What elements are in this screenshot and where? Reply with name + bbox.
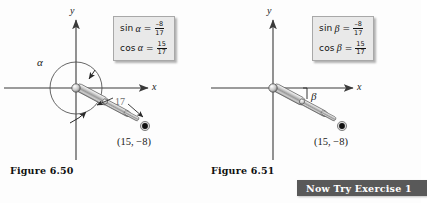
cos-denominator: 17 xyxy=(355,49,365,56)
angle-label-beta: β xyxy=(311,91,316,102)
formula-row-sin-beta: sin β = –8 17 xyxy=(319,21,366,37)
terminal-ray-rod xyxy=(272,83,338,123)
figure-6-50-panel: y x α 17 (15, −8) sin α = –8 17 cos α = xyxy=(0,0,211,203)
sin-variable: β xyxy=(335,24,340,34)
x-axis-label: x xyxy=(357,82,361,92)
sin-equals: = xyxy=(144,24,152,33)
terminal-ray-rod xyxy=(75,83,141,123)
cos-equals: = xyxy=(146,44,154,53)
origin-hub xyxy=(72,84,80,92)
y-axis-label: y xyxy=(267,6,271,16)
cos-equals: = xyxy=(345,44,353,53)
origin-hub xyxy=(269,84,277,92)
terminal-point-label: (15, −8) xyxy=(117,137,151,148)
now-try-exercise-banner[interactable]: Now Try Exercise 1 xyxy=(297,180,427,196)
beta-angle-mark xyxy=(303,88,307,99)
sin-equals: = xyxy=(342,24,350,33)
formula-callout-alpha: sin α = –8 17 cos α = 15 17 xyxy=(113,16,175,61)
formula-row-sin-alpha: sin α = –8 17 xyxy=(120,21,167,37)
cos-fraction: 15 17 xyxy=(355,41,365,57)
sin-variable: α xyxy=(136,24,141,34)
cos-fraction: 15 17 xyxy=(157,41,167,57)
figure-caption-6-51: Figure 6.51 xyxy=(211,165,275,176)
terminal-point-label: (15, −8) xyxy=(314,137,348,148)
sin-fraction: –8 17 xyxy=(154,21,164,37)
cos-function-name: cos xyxy=(120,44,136,53)
sin-denominator: 17 xyxy=(353,29,363,36)
terminal-point-dot xyxy=(140,121,149,130)
sin-function-name: sin xyxy=(120,24,134,33)
terminal-point-dot xyxy=(337,121,346,130)
sin-function-name: sin xyxy=(319,24,333,33)
figure-6-50-plot: y x α 17 (15, −8) xyxy=(0,0,211,165)
sin-fraction: –8 17 xyxy=(353,21,363,37)
cos-variable: β xyxy=(337,43,342,53)
length-label-17: 17 xyxy=(115,97,125,107)
angle-label-alpha: α xyxy=(37,57,43,68)
formula-callout-beta: sin β = –8 17 cos β = 15 17 xyxy=(312,16,374,61)
formula-row-cos-alpha: cos α = 15 17 xyxy=(120,41,167,57)
cos-denominator: 17 xyxy=(157,49,167,56)
figure-caption-6-50: Figure 6.50 xyxy=(10,165,74,176)
cos-function-name: cos xyxy=(319,44,335,53)
y-axis-label: y xyxy=(70,6,74,16)
formula-row-cos-beta: cos β = 15 17 xyxy=(319,41,366,57)
cos-variable: α xyxy=(138,43,143,53)
x-axis-label: x xyxy=(152,82,156,92)
sin-denominator: 17 xyxy=(154,29,164,36)
